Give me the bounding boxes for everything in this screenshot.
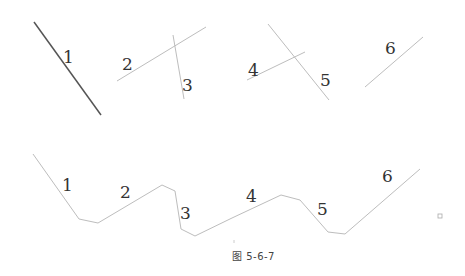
- segment-label-6: 6: [385, 38, 396, 58]
- polyline-label-3: 3: [180, 203, 191, 223]
- segment-label-2: 2: [122, 54, 133, 74]
- polyline-path: [33, 154, 420, 236]
- figure-caption: 图 5-6-7: [232, 248, 275, 263]
- segment-label-3: 3: [182, 75, 193, 95]
- polyline-label-2: 2: [120, 182, 131, 202]
- connected-polyline: 123456: [33, 154, 420, 236]
- line-diagram: 123456 123456: [0, 0, 465, 276]
- segment-label-4: 4: [248, 60, 259, 80]
- segment-label-5: 5: [320, 70, 331, 90]
- polyline-label-6: 6: [382, 166, 393, 186]
- segment-label-1: 1: [63, 47, 74, 67]
- polyline-label-4: 4: [246, 186, 257, 206]
- figure-canvas: 123456 123456 图 5-6-7: [0, 0, 465, 276]
- separate-segments: 123456: [34, 22, 423, 115]
- segment-1: [34, 22, 101, 115]
- polyline-label-1: 1: [62, 175, 73, 195]
- polyline-label-5: 5: [317, 199, 328, 219]
- small-square-mark: [438, 214, 442, 218]
